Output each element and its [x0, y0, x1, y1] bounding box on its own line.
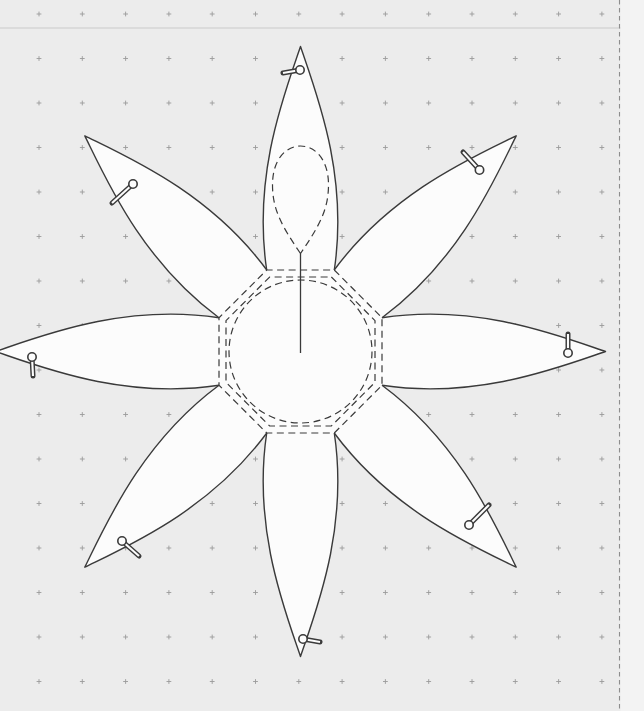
- flower-template: [0, 47, 606, 657]
- pin-head-icon: [564, 349, 572, 357]
- pin-head-icon: [296, 66, 304, 74]
- pin-head-icon: [475, 166, 483, 174]
- pin-head-icon: [129, 180, 137, 188]
- pin-head-icon: [465, 521, 473, 529]
- pattern-canvas: [0, 0, 644, 711]
- pin-head-icon: [28, 353, 36, 361]
- pin-head-icon: [118, 537, 126, 545]
- page-edge-strip: [621, 0, 644, 711]
- flower-pattern-drawing: [0, 0, 644, 711]
- pin-head-icon: [299, 635, 307, 643]
